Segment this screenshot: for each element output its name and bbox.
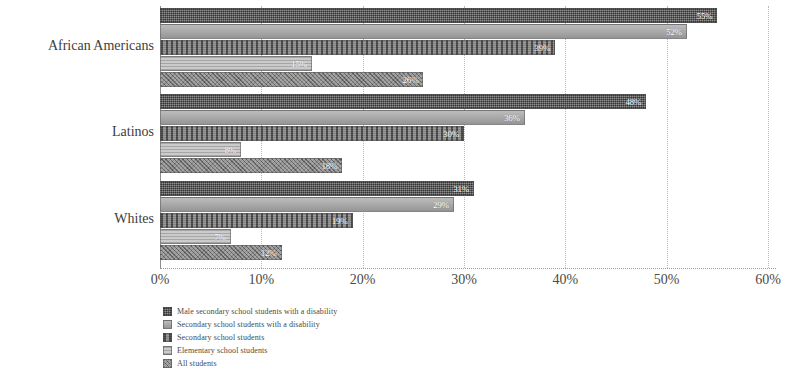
legend-item[interactable]: All students: [163, 357, 337, 369]
x-tick-label: 10%: [231, 272, 291, 288]
legend-item[interactable]: Male secondary school students with a di…: [163, 305, 337, 317]
bar-group: 55%52%39%15%26%: [160, 8, 768, 88]
bar-value-label: 39%: [534, 43, 550, 53]
bar-group: 31%29%19%7%12%: [160, 181, 768, 261]
bar[interactable]: 52%: [160, 24, 687, 39]
legend-swatch-icon: [163, 359, 172, 368]
bar[interactable]: 39%: [160, 40, 555, 55]
bar-value-label: 36%: [504, 113, 520, 123]
bar[interactable]: 26%: [160, 72, 423, 87]
bar[interactable]: 30%: [160, 126, 464, 141]
legend-item[interactable]: Elementary school students: [163, 344, 337, 356]
x-tick-label: 20%: [333, 272, 393, 288]
bar-value-label: 48%: [625, 97, 641, 107]
bar-value-label: 52%: [666, 27, 682, 37]
category-label: Whites: [0, 211, 154, 227]
bar-row: 36%: [160, 110, 768, 125]
category-label: Latinos: [0, 124, 154, 140]
bar[interactable]: 19%: [160, 213, 353, 228]
bar[interactable]: 15%: [160, 56, 312, 71]
bar[interactable]: 55%: [160, 8, 717, 23]
legend-label: Secondary school students: [177, 333, 264, 342]
bar-row: 52%: [160, 24, 768, 39]
bar[interactable]: 36%: [160, 110, 525, 125]
bar-row: 26%: [160, 72, 768, 87]
plot-area: 55%52%39%15%26%48%36%30%8%18%31%29%19%7%…: [160, 6, 768, 268]
bar[interactable]: 12%: [160, 245, 282, 260]
chart-legend: Male secondary school students with a di…: [163, 305, 337, 370]
bar[interactable]: 7%: [160, 229, 231, 244]
bar[interactable]: 31%: [160, 181, 474, 196]
x-tick-label: 40%: [535, 272, 595, 288]
x-axis-line: [160, 268, 776, 269]
bar-row: 48%: [160, 94, 768, 109]
bar-row: 18%: [160, 158, 768, 173]
bar-value-label: 12%: [261, 248, 277, 258]
x-tick-label: 60%: [738, 272, 793, 288]
legend-swatch-icon: [163, 346, 172, 355]
bar-value-label: 55%: [696, 11, 712, 21]
legend-label: All students: [177, 359, 217, 368]
bar-value-label: 30%: [443, 129, 459, 139]
bar-group: 48%36%30%8%18%: [160, 94, 768, 174]
legend-swatch-icon: [163, 333, 172, 342]
bar[interactable]: 48%: [160, 94, 646, 109]
bar-row: 29%: [160, 197, 768, 212]
bar-row: 31%: [160, 181, 768, 196]
bar[interactable]: 29%: [160, 197, 454, 212]
bar-row: 12%: [160, 245, 768, 260]
bar-value-label: 18%: [321, 161, 337, 171]
bar-chart: 55%52%39%15%26%48%36%30%8%18%31%29%19%7%…: [0, 0, 793, 380]
bar-value-label: 29%: [433, 200, 449, 210]
bar[interactable]: 18%: [160, 158, 342, 173]
x-tick-label: 30%: [434, 272, 494, 288]
bar-row: 19%: [160, 213, 768, 228]
legend-label: Elementary school students: [177, 346, 268, 355]
x-tick-label: 0%: [130, 272, 190, 288]
bar-row: 39%: [160, 40, 768, 55]
bar[interactable]: 8%: [160, 142, 241, 157]
gridline-60%: [768, 6, 769, 268]
x-tick-label: 50%: [637, 272, 697, 288]
bar-row: 8%: [160, 142, 768, 157]
bar-value-label: 19%: [332, 216, 348, 226]
category-label: African Americans: [0, 38, 154, 54]
bar-value-label: 15%: [291, 59, 307, 69]
bar-row: 15%: [160, 56, 768, 71]
legend-swatch-icon: [163, 320, 172, 329]
bar-row: 30%: [160, 126, 768, 141]
bar-value-label: 26%: [403, 75, 419, 85]
bar-value-label: 7%: [214, 232, 226, 242]
legend-item[interactable]: Secondary school students with a disabil…: [163, 318, 337, 330]
legend-label: Male secondary school students with a di…: [177, 307, 337, 316]
legend-swatch-icon: [163, 307, 172, 316]
bar-value-label: 31%: [453, 184, 469, 194]
bar-row: 7%: [160, 229, 768, 244]
legend-label: Secondary school students with a disabil…: [177, 320, 320, 329]
legend-item[interactable]: Secondary school students: [163, 331, 337, 343]
bar-value-label: 8%: [224, 145, 236, 155]
bar-row: 55%: [160, 8, 768, 23]
